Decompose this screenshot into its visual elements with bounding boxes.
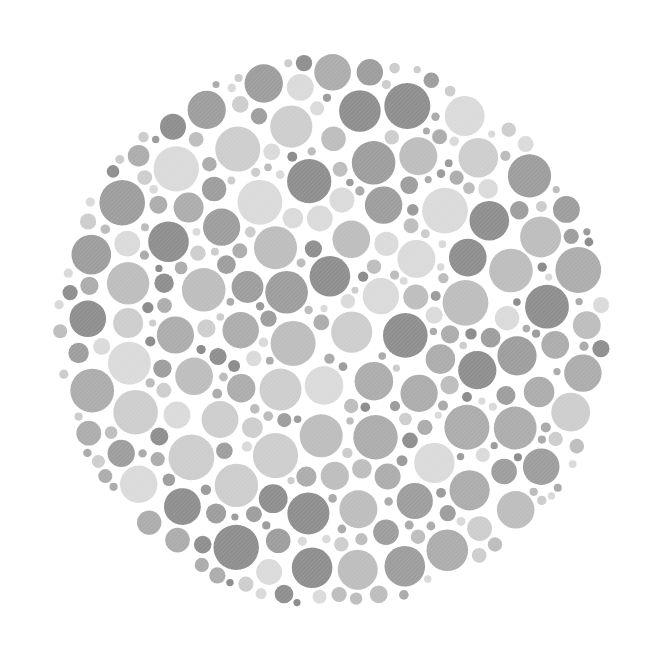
plate-dot xyxy=(500,151,510,161)
dot-hatch-texture xyxy=(203,209,240,246)
dot-hatch-texture xyxy=(256,559,282,585)
dot-hatch-texture xyxy=(497,491,535,529)
plate-dot xyxy=(427,522,436,531)
dot-hatch-texture xyxy=(232,243,247,258)
dot-hatch-texture xyxy=(163,473,176,486)
dot-hatch-texture xyxy=(333,221,371,259)
dot-hatch-texture xyxy=(481,328,501,348)
dot-hatch-texture xyxy=(374,232,398,256)
plate-dot xyxy=(242,442,252,452)
dot-hatch-texture xyxy=(246,506,262,522)
dot-hatch-texture xyxy=(551,393,590,432)
plate-dot xyxy=(86,198,95,207)
dot-hatch-texture xyxy=(494,407,537,450)
dot-hatch-texture xyxy=(182,268,226,312)
dot-hatch-texture xyxy=(283,208,304,229)
plate-dot xyxy=(445,159,453,167)
plate-dot xyxy=(297,258,306,267)
dot-hatch-texture xyxy=(305,240,322,257)
plate-dot xyxy=(569,460,577,468)
plate-dot xyxy=(276,170,285,179)
plate-dot xyxy=(431,291,441,301)
dot-hatch-texture xyxy=(344,399,358,413)
dot-hatch-texture xyxy=(63,285,78,300)
plate-dot xyxy=(583,228,590,235)
dot-pattern xyxy=(0,0,650,669)
dot-hatch-texture xyxy=(564,354,601,391)
dot-hatch-texture xyxy=(98,469,112,483)
plate-dot xyxy=(145,336,155,346)
plate-dot xyxy=(201,485,211,495)
plate-dot xyxy=(390,401,400,411)
dot-hatch-texture xyxy=(251,108,267,124)
plate-dot xyxy=(217,313,225,321)
dot-hatch-texture xyxy=(305,366,344,405)
plate-dot xyxy=(393,365,400,372)
dot-hatch-texture xyxy=(426,344,456,374)
dot-hatch-texture xyxy=(154,146,199,191)
dot-hatch-texture xyxy=(570,439,585,454)
dot-hatch-texture xyxy=(424,73,440,89)
dot-hatch-texture xyxy=(426,307,443,324)
plate-dot xyxy=(405,521,414,530)
plate-dot xyxy=(457,517,466,526)
dot-hatch-texture xyxy=(489,249,533,293)
dot-hatch-texture xyxy=(164,402,191,429)
dot-hatch-texture xyxy=(108,342,151,385)
plate-dot xyxy=(346,417,353,424)
plate-dot xyxy=(438,273,448,283)
dot-hatch-texture xyxy=(332,587,347,602)
dot-hatch-texture xyxy=(353,415,397,459)
plate-dot xyxy=(138,449,146,457)
plate-dot xyxy=(338,525,347,534)
dot-hatch-texture xyxy=(520,216,561,257)
plate-dot xyxy=(538,436,546,444)
dot-hatch-texture xyxy=(287,159,331,203)
plate-dot xyxy=(110,483,118,491)
dot-hatch-texture xyxy=(478,179,498,199)
dot-hatch-texture xyxy=(194,536,212,554)
plate-dot xyxy=(59,370,68,379)
plate-dot xyxy=(361,402,371,412)
dot-hatch-texture xyxy=(259,484,288,513)
dot-hatch-texture xyxy=(384,83,430,129)
dot-hatch-texture xyxy=(287,492,329,534)
dot-hatch-texture xyxy=(260,369,302,411)
dot-hatch-texture xyxy=(157,316,194,353)
dot-hatch-texture xyxy=(300,414,343,457)
dot-hatch-texture xyxy=(188,91,226,129)
dot-hatch-texture xyxy=(107,165,120,178)
plate-dot xyxy=(536,201,547,212)
plate-dot xyxy=(213,81,220,88)
dot-hatch-texture xyxy=(341,294,355,308)
plate-dot xyxy=(400,277,408,285)
dot-hatch-texture xyxy=(352,141,396,185)
plate-dot xyxy=(342,448,352,458)
plate-dot xyxy=(478,398,485,405)
dot-hatch-texture xyxy=(422,188,468,234)
dot-hatch-texture xyxy=(215,464,258,507)
dot-hatch-texture xyxy=(400,176,418,194)
plate-dot xyxy=(390,271,399,280)
dot-hatch-texture xyxy=(383,313,428,358)
plate-dot xyxy=(262,521,270,529)
plate-dot xyxy=(235,74,243,82)
plate-dot xyxy=(75,413,83,421)
plate-dot xyxy=(266,357,274,365)
plate-dot xyxy=(437,263,445,271)
plate-dot xyxy=(64,269,73,278)
dot-hatch-texture xyxy=(275,585,294,604)
plate-dot xyxy=(212,389,222,399)
plate-dot xyxy=(545,273,552,280)
plate-dot xyxy=(541,422,551,432)
dot-hatch-texture xyxy=(440,376,458,394)
plate-dot xyxy=(553,368,560,375)
dot-hatch-texture xyxy=(202,401,239,438)
dot-hatch-texture xyxy=(357,59,383,85)
dot-hatch-texture xyxy=(223,312,259,348)
plate-dot xyxy=(298,537,307,546)
dot-hatch-texture xyxy=(331,312,372,353)
dot-hatch-texture xyxy=(232,271,264,303)
dot-hatch-texture xyxy=(375,464,401,490)
plate-dot xyxy=(251,168,260,177)
